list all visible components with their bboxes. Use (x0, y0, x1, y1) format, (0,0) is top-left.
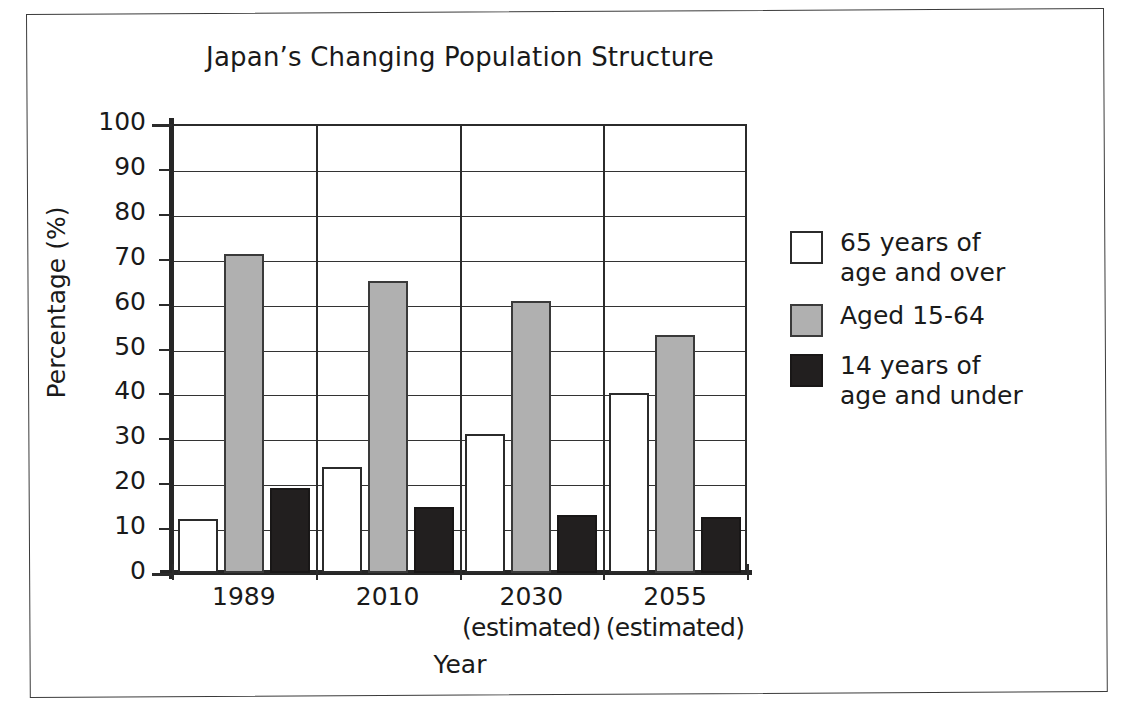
category-separator (316, 126, 318, 573)
category-year: 2055 (600, 582, 750, 611)
legend-swatch-icon (790, 231, 823, 264)
y-axis-tick (159, 393, 170, 395)
y-axis-tick (159, 259, 170, 261)
legend-item: 65 years of age and over (790, 228, 1090, 287)
bar-chart-figure: Japan’s Changing Population Structure Pe… (0, 0, 1131, 718)
bar (655, 335, 695, 573)
legend-swatch-icon (790, 354, 823, 387)
y-axis-tick (159, 528, 170, 530)
category-separator (603, 126, 605, 573)
y-axis-tick (159, 169, 170, 171)
x-axis-title: Year (360, 650, 560, 679)
category-year: 1989 (169, 582, 319, 611)
chart-legend: 65 years of age and overAged 15-6414 yea… (790, 228, 1090, 424)
y-axis-tick (152, 124, 172, 127)
y-axis-tick-label: 80 (84, 197, 146, 226)
legend-item: 14 years of age and under (790, 351, 1090, 410)
x-axis-tick (460, 564, 462, 580)
x-axis-tick (603, 564, 605, 580)
bar (322, 467, 362, 573)
category-year: 2030 (456, 582, 606, 611)
y-axis-tick-label: 0 (84, 556, 146, 585)
bar (557, 515, 597, 573)
y-axis-tick-label: 60 (84, 287, 146, 316)
bar (609, 393, 649, 573)
y-axis-tick (159, 483, 170, 485)
bar (224, 254, 264, 573)
x-axis-tick (316, 564, 318, 580)
gridline-horizontal (172, 171, 745, 172)
y-axis-tick-label: 70 (84, 242, 146, 271)
y-axis-tick (159, 438, 170, 440)
y-axis-tick-label: 20 (84, 466, 146, 495)
legend-label: Aged 15-64 (840, 301, 985, 331)
legend-item: Aged 15-64 (790, 301, 1090, 337)
y-axis-tick-label: 10 (84, 511, 146, 540)
x-axis-category-label: 2055(estimated) (600, 582, 750, 642)
x-axis-tick (172, 564, 174, 580)
y-axis-tick-label: 100 (84, 107, 146, 136)
legend-label: 14 years of age and under (840, 351, 1023, 410)
y-axis-title: Percentage (%) (42, 203, 71, 403)
x-axis-category-label: 2030(estimated) (456, 582, 606, 642)
bar (465, 434, 505, 573)
category-separator (460, 126, 462, 573)
legend-label: 65 years of age and over (840, 228, 1005, 287)
x-axis-category-label: 2010 (313, 582, 463, 611)
y-axis-tick (152, 573, 172, 576)
bar (511, 301, 551, 573)
y-axis-tick-label: 90 (84, 152, 146, 181)
chart-title: Japan’s Changing Population Structure (170, 42, 750, 72)
x-axis-tick (747, 564, 749, 580)
legend-swatch-icon (790, 304, 823, 337)
scan-artifact-top (380, 0, 740, 8)
x-axis-category-label: 1989 (169, 582, 319, 611)
category-year: 2010 (313, 582, 463, 611)
y-axis-tick-label: 30 (84, 421, 146, 450)
bar (701, 517, 741, 573)
y-axis-tick (159, 304, 170, 306)
category-note: (estimated) (600, 613, 750, 642)
y-axis-tick (159, 214, 170, 216)
bar (368, 281, 408, 573)
category-note: (estimated) (456, 613, 606, 642)
bar (178, 519, 218, 573)
y-axis-tick-label: 50 (84, 332, 146, 361)
y-axis-tick (159, 349, 170, 351)
bar (270, 488, 310, 573)
bar (414, 507, 454, 573)
gridline-horizontal (172, 216, 745, 217)
y-axis-tick-label: 40 (84, 376, 146, 405)
